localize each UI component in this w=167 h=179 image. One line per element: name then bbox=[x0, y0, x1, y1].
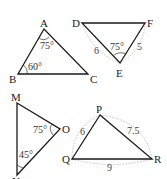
angle-n-label: 45° bbox=[19, 149, 33, 160]
angle-b-label: 60° bbox=[28, 61, 42, 72]
vertex-e-label: E bbox=[116, 67, 123, 79]
angle-o-arc bbox=[50, 124, 53, 135]
side-pr-label: 7.5 bbox=[127, 125, 140, 136]
vertex-c-label: C bbox=[90, 73, 97, 85]
triangle-mno-outline bbox=[17, 103, 60, 175]
angle-b-arc bbox=[23, 65, 27, 74]
triangle-pqr-outline bbox=[72, 115, 152, 159]
vertex-o-label: O bbox=[62, 123, 70, 135]
triangle-pqr: P Q R 6 7.5 9 bbox=[62, 103, 162, 173]
vertex-d-label: D bbox=[72, 17, 80, 29]
triangle-mno: M N O 75° 45° bbox=[11, 91, 70, 179]
vertex-r-label: R bbox=[154, 153, 162, 165]
side-ef-label: 5 bbox=[137, 41, 142, 52]
vertex-b-label: B bbox=[9, 73, 16, 85]
triangle-abc: A B C 75° 60° bbox=[9, 17, 97, 85]
side-qr-label: 9 bbox=[107, 162, 112, 173]
side-pq-label: 6 bbox=[80, 126, 85, 137]
vertex-m-label: M bbox=[11, 91, 21, 103]
angle-o-label: 75° bbox=[33, 124, 47, 135]
vertex-f-label: F bbox=[147, 17, 153, 29]
side-de-label: 6 bbox=[94, 45, 99, 56]
vertex-p-label: P bbox=[96, 103, 102, 115]
side-qr-dim bbox=[72, 159, 152, 165]
angle-n-arc bbox=[17, 165, 23, 168]
angle-a-label: 75° bbox=[40, 40, 54, 51]
vertex-a-label: A bbox=[40, 17, 48, 29]
vertex-q-label: Q bbox=[62, 153, 70, 165]
geometry-diagram: A B C 75° 60° D E F 75° 6 5 M N O 75° 45… bbox=[0, 0, 167, 179]
angle-e-label: 75° bbox=[110, 41, 124, 52]
angle-e-arc bbox=[114, 53, 126, 55]
vertex-n-label: N bbox=[12, 175, 20, 179]
